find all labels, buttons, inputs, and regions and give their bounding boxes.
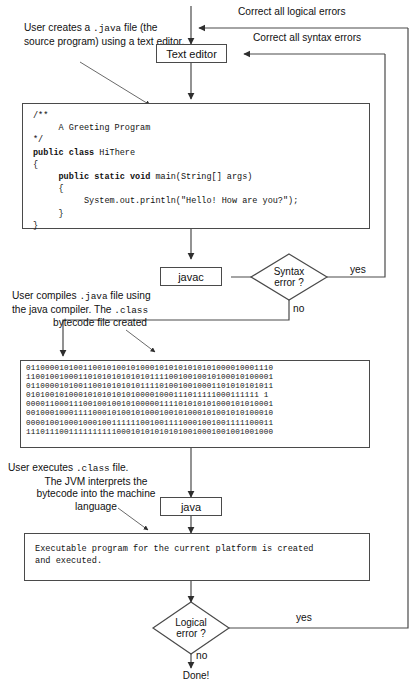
node-source-code-box: /** A Greeting Program */ public class H… [22,103,370,229]
node-text-editor[interactable]: Text editor [156,44,227,63]
note-exec-line1a: User executes [8,462,76,473]
syntax-decision-line2: error ? [274,277,303,289]
source-code-text: /** A Greeting Program */ public class H… [33,110,361,232]
flowchart-canvas: User creates a .java file (the source pr… [0,0,416,686]
executable-text: Executable program for the current platf… [35,543,359,567]
edge-label-correct-syntax-errors: Correct all syntax errors [253,32,361,43]
note-compile-line1b: file using [108,290,151,301]
logical-decision-line2: error ? [176,628,205,640]
node-java-label: java [181,501,201,513]
bytecode-text: 0110000101001100101001010001010101010101… [26,364,365,437]
note-exec-line2: The JVM interprets the [8,476,184,489]
node-executable-program-box: Executable program for the current platf… [24,533,370,581]
node-java[interactable]: java [160,497,222,516]
note-create-java-ext: .java [93,23,121,34]
note-exec-line4: language [8,501,184,514]
node-javac[interactable]: javac [160,267,222,286]
note-exec-line1b: file. [110,462,129,473]
note-create-line1a: User creates a [24,22,93,33]
edge-label-logical-yes: yes [296,612,312,623]
note-compile-line1a: User compiles [12,290,79,301]
node-logical-error-decision[interactable]: Logical error ? [153,602,229,654]
note-compile-java-ext: .java [79,291,107,302]
note-compile-line3: bytecode file created [12,317,188,330]
note-execute: User executes .class file. The JVM inter… [8,462,184,513]
node-javac-label: javac [178,271,204,283]
note-compile-class-ext: .class [114,305,148,316]
note-compile-line2a: the java compiler. The [12,304,114,315]
node-syntax-error-decision[interactable]: Syntax error ? [251,254,327,300]
note-exec-line3: bytecode into the machine [8,488,184,501]
syntax-decision-line1: Syntax [274,266,305,278]
note-compile: User compiles .java file using the java … [12,290,188,330]
node-bytecode-box: 0110000101001100101001010001010101010101… [20,360,370,448]
edge-label-correct-logical-errors: Correct all logical errors [238,6,346,17]
note-create-line1b: file (the [121,22,157,33]
edge-label-syntax-no: no [293,303,304,314]
edge-label-syntax-yes: yes [350,264,366,275]
logical-decision-line1: Logical [175,617,207,629]
node-text-editor-label: Text editor [166,48,217,60]
node-done-label: Done! [166,670,226,681]
note-exec-class-ext: .class [76,463,110,474]
